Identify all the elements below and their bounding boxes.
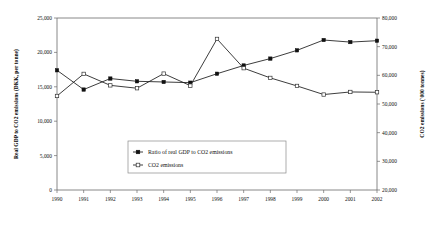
legend-marker <box>136 163 140 167</box>
data-point <box>82 88 85 91</box>
left-tick-label: 20,000 <box>37 49 52 55</box>
x-tick-label: 1991 <box>78 196 89 202</box>
data-point <box>269 57 272 60</box>
data-point <box>349 40 352 43</box>
left-tick-label: 10,000 <box>37 118 52 124</box>
data-point <box>322 38 325 41</box>
left-tick-label: 15,000 <box>37 84 52 90</box>
right-tick-label: 50,000 <box>382 101 397 107</box>
left-tick-label: 0 <box>49 187 52 193</box>
x-tick-label: 1994 <box>158 196 169 202</box>
x-tick-label: 1990 <box>52 196 63 202</box>
right-tick-label: 30,000 <box>382 158 397 164</box>
legend-label: CO2 emissions <box>148 162 184 168</box>
right-tick-label: 20,000 <box>382 187 397 193</box>
right-tick-label: 40,000 <box>382 130 397 136</box>
x-tick-label: 1996 <box>212 196 223 202</box>
x-tick-label: 1998 <box>265 196 276 202</box>
legend-box <box>128 141 286 173</box>
x-tick-label: 1993 <box>132 196 143 202</box>
data-point <box>109 84 112 87</box>
data-point <box>162 80 165 83</box>
right-tick-label: 80,000 <box>382 15 397 21</box>
x-tick-label: 2002 <box>372 196 383 202</box>
data-point <box>269 76 272 79</box>
data-point <box>215 37 218 40</box>
data-point <box>295 84 298 87</box>
right-tick-label: 60,000 <box>382 72 397 78</box>
x-tick-label: 1999 <box>292 196 303 202</box>
x-tick-label: 2001 <box>345 196 356 202</box>
data-point <box>242 66 245 69</box>
left-tick-label: 25,000 <box>37 15 52 21</box>
data-point <box>109 77 112 80</box>
right-tick-label: 70,000 <box>382 44 397 50</box>
data-point <box>189 84 192 87</box>
data-point <box>135 87 138 90</box>
x-tick-label: 1992 <box>105 196 116 202</box>
data-point <box>349 90 352 93</box>
x-tick-label: 2000 <box>318 196 329 202</box>
x-tick-label: 1995 <box>185 196 196 202</box>
data-point <box>375 39 378 42</box>
chart-legend: Ratio of real GDP to CO2 emissionsCO2 em… <box>128 141 286 173</box>
chart-background <box>0 0 442 229</box>
left-tick-label: 5,000 <box>40 153 52 159</box>
data-point <box>375 91 378 94</box>
data-point <box>215 72 218 75</box>
right-axis-title: CO2 emissions ('000 tonnes) <box>419 70 426 137</box>
line-chart: 05,00010,00015,00020,00025,000 20,00030,… <box>0 0 442 229</box>
data-point <box>295 49 298 52</box>
chart-container: 05,00010,00015,00020,00025,000 20,00030,… <box>0 0 442 229</box>
left-axis-title: Real GDP to CO2 emissions (DKK, per tonn… <box>13 49 20 159</box>
data-point <box>55 94 58 97</box>
legend-label: Ratio of real GDP to CO2 emissions <box>148 149 233 155</box>
data-point <box>82 72 85 75</box>
data-point <box>55 69 58 72</box>
x-tick-label: 1997 <box>238 196 249 202</box>
data-point <box>135 80 138 83</box>
legend-marker <box>136 150 140 154</box>
data-point <box>162 72 165 75</box>
data-point <box>322 93 325 96</box>
